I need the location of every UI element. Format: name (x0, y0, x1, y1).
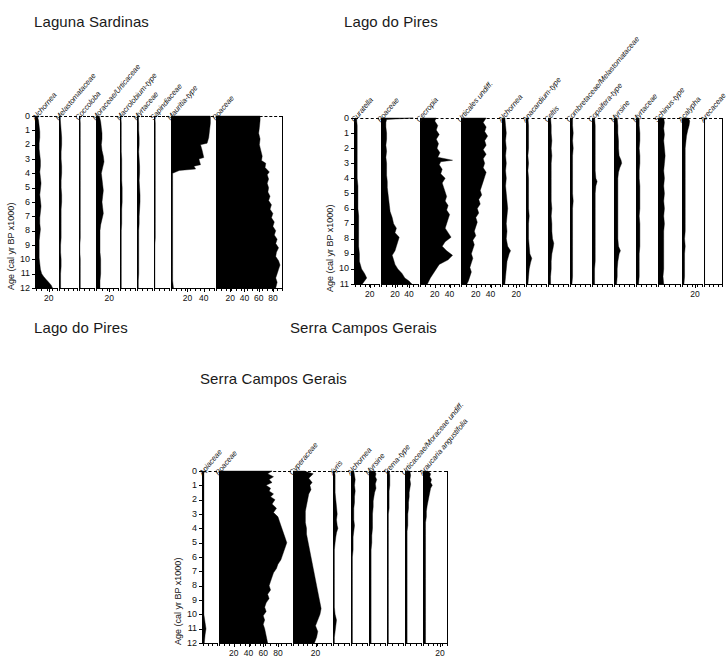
x-tick-mark (286, 643, 287, 646)
curve-araucaria-angustifolia (423, 0, 447, 667)
x-tick-mark (125, 288, 126, 291)
x-axis-line (369, 643, 385, 644)
y-tick-label: 8 (179, 581, 197, 590)
x-axis-line (423, 643, 447, 644)
x-tick-mark (212, 643, 213, 646)
x-major-tick-mark (316, 643, 317, 647)
x-axis-line (137, 288, 152, 289)
x-tick-mark (380, 643, 381, 646)
x-tick-mark (568, 284, 569, 287)
x-tick-mark (713, 284, 714, 287)
column-anacardium-type: Anacardium-type (526, 0, 546, 667)
x-tick-mark (658, 284, 659, 287)
x-tick-mark (344, 643, 345, 646)
x-tick-mark (495, 284, 496, 287)
y-tick-label: 5 (179, 538, 197, 547)
x-tick-mark (664, 284, 665, 287)
x-tick-label: 80 (273, 648, 282, 658)
x-major-tick-mark (109, 288, 110, 292)
x-tick-mark (541, 284, 542, 287)
x-tick-mark (590, 284, 591, 287)
x-tick-mark (459, 284, 460, 287)
x-axis-line (203, 643, 217, 644)
y-tick-label: 11 (179, 624, 197, 633)
column-arecaceae: Arecaceae (704, 0, 722, 667)
column-myrsine: Myrsine (614, 0, 634, 667)
y-tick-label: 3 (12, 155, 30, 164)
panel-right-frame (722, 118, 723, 285)
x-tick-mark (293, 643, 294, 646)
x-tick-mark (36, 288, 37, 291)
x-tick-mark (224, 643, 225, 646)
x-tick-mark (718, 284, 719, 287)
x-tick-mark (68, 288, 69, 291)
x-tick-mark (697, 284, 698, 287)
x-tick-mark (303, 643, 304, 646)
curve-cyperaceae (293, 0, 331, 667)
x-tick-mark (612, 284, 613, 287)
x-tick-mark (641, 284, 642, 287)
x-tick-mark (135, 288, 136, 291)
x-tick-label: 20 (512, 289, 521, 299)
x-tick-mark (94, 288, 95, 291)
x-tick-mark (607, 284, 608, 287)
x-tick-mark (421, 643, 422, 646)
y-tick-label: 12 (12, 284, 30, 293)
column-combretaceae-melastomataceae: Combretaceae/Melastomataceae (570, 0, 590, 667)
column-urticales-undiff-: 2040Urticales undiff. (461, 0, 500, 667)
x-major-tick-mark (249, 643, 250, 647)
x-tick-label: 20 (105, 293, 114, 303)
curve-xyris (333, 0, 349, 667)
column-urticaceae-moraceae-undiff-: Urticaceae/Moraceae undiff. (405, 0, 421, 667)
x-tick-mark (120, 288, 121, 291)
column-acalypha: 20Acalypha (682, 0, 702, 667)
x-major-tick-mark (187, 288, 188, 292)
x-tick-mark (152, 288, 153, 291)
column-poaceae: 20406080Poaceae (219, 0, 291, 667)
x-tick-mark (548, 284, 549, 287)
x-tick-mark (57, 288, 58, 291)
x-tick-mark (428, 643, 429, 646)
x-tick-mark (73, 288, 74, 291)
x-tick-mark (385, 643, 386, 646)
x-tick-mark (79, 288, 80, 291)
x-tick-mark (687, 284, 688, 287)
x-tick-mark (154, 288, 155, 291)
x-tick-mark (546, 284, 547, 287)
caption-lago-do-pires: Lago do Pires (34, 319, 128, 336)
x-tick-mark (362, 643, 363, 646)
x-axis-line (387, 643, 403, 644)
column-myrtaceae: Myrtaceae (137, 0, 152, 667)
x-tick-mark (208, 643, 209, 646)
x-tick-mark (159, 288, 160, 291)
x-tick-mark (176, 288, 177, 291)
x-tick-mark (169, 288, 170, 291)
x-tick-mark (410, 643, 411, 646)
x-tick-mark (461, 284, 462, 287)
curve-trema-type (387, 0, 403, 667)
column-xyris: Xyris (333, 0, 349, 667)
x-tick-mark (398, 643, 399, 646)
x-tick-mark (526, 284, 527, 287)
x-tick-mark (636, 284, 637, 287)
x-tick-mark (229, 643, 230, 646)
x-tick-mark (471, 284, 472, 287)
x-tick-label: 20 (311, 648, 320, 658)
column-araucaria-angustifolia: 20Araucaria angustifolia (423, 0, 447, 667)
x-tick-mark (646, 284, 647, 287)
x-tick-mark (437, 643, 438, 646)
x-tick-mark (322, 643, 323, 646)
y-tick-label: 8 (12, 226, 30, 235)
x-tick-mark (485, 284, 486, 287)
x-tick-label: 20 (183, 293, 192, 303)
x-tick-mark (356, 643, 357, 646)
y-tick-label: 3 (179, 510, 197, 519)
y-tick-label: 12 (179, 639, 197, 648)
x-tick-label: 20 (690, 289, 699, 299)
x-tick-mark (553, 284, 554, 287)
y-tick-label: 10 (12, 255, 30, 264)
curve-apiaceae (203, 0, 217, 667)
x-tick-mark (307, 643, 308, 646)
x-tick-mark (102, 288, 103, 291)
x-tick-mark (351, 643, 352, 646)
